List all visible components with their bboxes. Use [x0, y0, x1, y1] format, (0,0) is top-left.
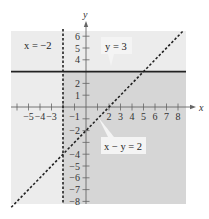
label-x-equals-neg2: x = −2	[24, 40, 52, 51]
x-tick-label: 3	[118, 111, 123, 122]
x-tick-label: −5	[23, 111, 34, 122]
x-tick-label: 8	[176, 111, 181, 122]
x-tick-label: 7	[164, 111, 169, 122]
x-tick-label: 5	[141, 111, 146, 122]
y-tick-label: 2	[75, 78, 80, 89]
label-y-equals-3: y = 3	[105, 41, 127, 52]
y-tick-label: −2	[69, 125, 80, 136]
y-tick-label: −6	[69, 172, 80, 183]
y-axis-label: y	[82, 9, 88, 20]
y-tick-label: 4	[75, 54, 80, 65]
x-tick-label: 4	[130, 111, 135, 122]
x-tick-label: −3	[46, 111, 57, 122]
x-axis-label: x	[198, 102, 204, 113]
x-tick-label: 2	[107, 111, 112, 122]
x-tick-label: −1	[69, 111, 80, 122]
x-axis-arrow-icon	[190, 105, 196, 109]
y-tick-label: −5	[69, 161, 80, 172]
x-tick-label: 6	[153, 111, 158, 122]
label-x-minus-y-equals-2: x − y = 2	[104, 141, 142, 152]
y-tick-label: −8	[69, 196, 80, 207]
y-axis-arrow-icon	[84, 21, 88, 27]
inequality-graph: xy−5−4−3−1234567865421−2−4−5−6−7−8x = −2…	[0, 0, 209, 219]
y-tick-label: 1	[75, 90, 80, 101]
y-tick-label: 6	[75, 31, 80, 42]
y-tick-label: −7	[69, 184, 80, 195]
x-tick-label: −4	[35, 111, 46, 122]
y-tick-label: 5	[75, 43, 80, 54]
y-tick-label: −4	[69, 149, 80, 160]
